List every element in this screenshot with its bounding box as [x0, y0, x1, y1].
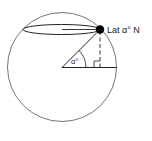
- location-point-dot: [96, 25, 104, 33]
- point-label: Lat α° N: [107, 25, 140, 35]
- angle-arc: [79, 51, 86, 68]
- latitude-diagram: α° Lat α° N: [0, 0, 152, 141]
- angle-label: α°: [71, 57, 78, 66]
- right-angle-marker: [94, 61, 100, 68]
